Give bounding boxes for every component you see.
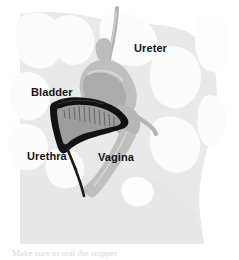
caption-text: Make sure to seal the stopper: [12, 250, 117, 258]
caption-strip: Make sure to seal the stopper: [0, 250, 239, 260]
bone-shape-sacral-right: [150, 46, 201, 108]
label-urethra: Urethra: [27, 150, 67, 162]
label-vagina: Vagina: [98, 151, 134, 163]
label-ureter: Ureter: [134, 42, 167, 54]
anatomy-figure: Ureter Bladder Urethra Vagina Make sure …: [0, 0, 239, 260]
label-bladder: Bladder: [31, 86, 73, 98]
anatomy-illustration: [0, 0, 239, 244]
